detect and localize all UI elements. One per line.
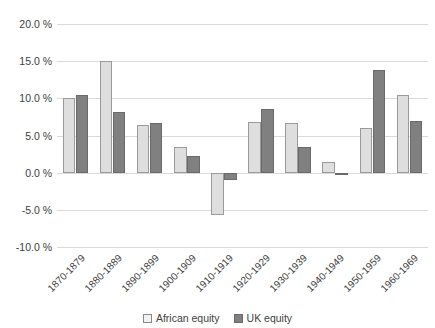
bar-group xyxy=(205,24,242,247)
legend-label: African equity xyxy=(156,312,220,324)
bar-group xyxy=(243,24,280,247)
bar-uk[interactable] xyxy=(224,173,237,180)
legend-item[interactable]: African equity xyxy=(143,312,220,324)
bar-group xyxy=(168,24,205,247)
bar-uk[interactable] xyxy=(298,147,311,173)
legend-label: UK equity xyxy=(247,312,293,324)
bar-group xyxy=(354,24,391,247)
bar-group xyxy=(57,24,94,247)
bar-uk[interactable] xyxy=(261,109,274,173)
bar-group xyxy=(317,24,354,247)
bar-uk[interactable] xyxy=(113,112,126,173)
bar-uk[interactable] xyxy=(76,95,89,173)
bar-african[interactable] xyxy=(137,125,150,173)
bar-uk[interactable] xyxy=(150,123,163,173)
bar-african[interactable] xyxy=(63,98,76,173)
bar-uk[interactable] xyxy=(373,70,386,173)
bar-uk[interactable] xyxy=(335,173,348,175)
bar-group xyxy=(131,24,168,247)
bar-african[interactable] xyxy=(211,173,224,215)
bar-african[interactable] xyxy=(322,162,335,172)
y-axis-tick-label: 15.0 % xyxy=(0,56,52,67)
bar-african[interactable] xyxy=(285,123,298,173)
bar-group xyxy=(94,24,131,247)
bar-african[interactable] xyxy=(174,147,187,172)
gridline xyxy=(57,247,428,248)
bar-african[interactable] xyxy=(100,61,113,173)
bar-uk[interactable] xyxy=(410,121,423,173)
y-axis-tick-label: 0.0 % xyxy=(0,168,52,179)
bar-group xyxy=(280,24,317,247)
bar-african[interactable] xyxy=(248,122,261,173)
y-axis-tick-label: -5.0 % xyxy=(0,205,52,216)
plot-area xyxy=(57,24,428,247)
legend-item[interactable]: UK equity xyxy=(234,312,293,324)
bar-chart: 20.0 %15.0 %10.0 %5.0 %0.0 %-5.0 %-10.0 … xyxy=(0,0,435,328)
legend-swatch-icon xyxy=(143,314,152,323)
bar-african[interactable] xyxy=(397,95,410,173)
y-axis-tick-label: 10.0 % xyxy=(0,93,52,104)
bar-uk[interactable] xyxy=(187,156,200,172)
y-axis-tick-label: 20.0 % xyxy=(0,19,52,30)
chart-legend: African equityUK equity xyxy=(0,312,435,324)
y-axis-tick-label: -10.0 % xyxy=(0,242,52,253)
y-axis-tick-label: 5.0 % xyxy=(0,131,52,142)
bar-african[interactable] xyxy=(360,128,373,173)
bar-group xyxy=(391,24,428,247)
legend-swatch-icon xyxy=(234,314,243,323)
